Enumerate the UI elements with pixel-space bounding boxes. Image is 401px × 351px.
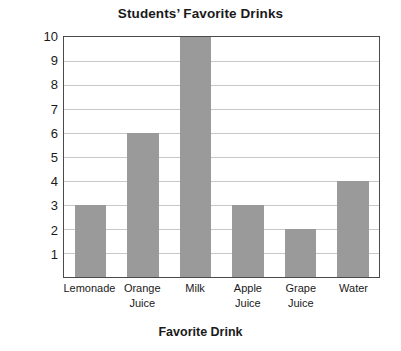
x-axis-title: Favorite Drink <box>0 325 401 339</box>
x-tick-label-line: Apple <box>221 281 274 296</box>
x-tick-label: AppleJuice <box>221 281 274 310</box>
x-tick-label-line: Juice <box>116 296 169 311</box>
chart-title: Students’ Favorite Drinks <box>0 6 401 21</box>
y-tick-label: 9 <box>7 53 63 68</box>
bar <box>180 37 212 277</box>
y-tick-label: 2 <box>7 222 63 237</box>
bar <box>285 229 317 277</box>
bar-slot <box>327 37 380 277</box>
bar <box>337 181 369 277</box>
x-tick-label-line: Water <box>327 281 380 296</box>
x-tick-label: Lemonade <box>63 281 116 310</box>
bar-slot <box>274 37 327 277</box>
plot-area <box>63 36 380 278</box>
x-tick-label-line: Grape <box>274 281 327 296</box>
bar <box>75 205 107 277</box>
bar-series <box>64 37 379 277</box>
x-tick-label: Milk <box>169 281 222 310</box>
bar <box>232 205 264 277</box>
x-axis-tick-labels: LemonadeOrangeJuiceMilkAppleJuiceGrapeJu… <box>63 281 380 310</box>
y-tick-label: 4 <box>7 174 63 189</box>
y-tick-label: 6 <box>7 125 63 140</box>
x-tick-label: Water <box>327 281 380 310</box>
bar-slot <box>64 37 117 277</box>
y-tick-label: 10 <box>7 29 63 44</box>
bar-slot <box>117 37 170 277</box>
bar-chart: Students’ Favorite Drinks Number of Stud… <box>0 0 401 351</box>
x-tick-label-line: Orange <box>116 281 169 296</box>
y-tick-label: 3 <box>7 198 63 213</box>
bar-slot <box>169 37 222 277</box>
x-tick-label-line: Milk <box>169 281 222 296</box>
y-tick-label: 5 <box>7 150 63 165</box>
x-tick-label-line: Juice <box>221 296 274 311</box>
y-tick-label: 1 <box>7 246 63 261</box>
x-tick-label-line: Lemonade <box>63 281 116 296</box>
x-tick-label: OrangeJuice <box>116 281 169 310</box>
y-tick-label: 8 <box>7 77 63 92</box>
y-tick-label: 7 <box>7 101 63 116</box>
x-tick-label-line: Juice <box>274 296 327 311</box>
x-tick-label: GrapeJuice <box>274 281 327 310</box>
bar <box>127 133 159 277</box>
y-axis-tick-labels: 10987654321 <box>0 36 63 278</box>
bar-slot <box>222 37 275 277</box>
